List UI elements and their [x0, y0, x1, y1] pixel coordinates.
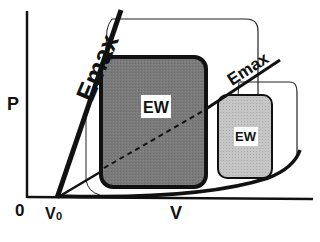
ew-loop-large	[101, 57, 206, 187]
v0-subscript: 0	[56, 210, 62, 222]
emax-label-shallow: Emax	[224, 48, 273, 89]
origin-label: 0	[15, 201, 24, 220]
outer-loop-left-foot	[86, 110, 100, 195]
pv-diagram: Emax Emax EW EW P 0 V 0 V	[0, 0, 320, 242]
ew-label-small: EW	[235, 129, 257, 144]
y-axis-label: P	[7, 94, 19, 114]
x-axis-label: V	[170, 203, 182, 223]
ew-label-large: EW	[143, 99, 170, 116]
v0-label: V	[45, 205, 56, 222]
